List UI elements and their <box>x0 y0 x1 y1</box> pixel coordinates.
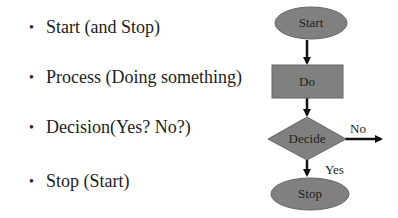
node-start: Start <box>275 7 347 39</box>
node-stop: Stop <box>271 178 349 210</box>
start-label: Start <box>299 15 324 30</box>
stop-label: Stop <box>298 186 322 201</box>
no-label: No <box>350 121 366 136</box>
yes-label: Yes <box>325 162 344 177</box>
node-decide: Decide <box>268 117 346 160</box>
flowchart: Start Do Decide Stop No Yes <box>0 0 398 218</box>
do-label: Do <box>299 74 315 89</box>
decide-label: Decide <box>289 131 326 146</box>
node-do: Do <box>272 65 343 98</box>
